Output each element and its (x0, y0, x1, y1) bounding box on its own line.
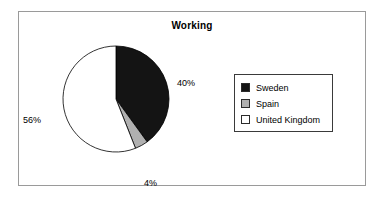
chart-title: Working (19, 20, 365, 31)
chart-legend: Sweden Spain United Kingdom (234, 74, 333, 132)
legend-swatch-sweden (241, 83, 250, 92)
legend-swatch-spain (241, 99, 250, 108)
pie-svg (63, 46, 169, 152)
legend-item-united-kingdom[interactable]: United Kingdom (241, 112, 326, 127)
legend-label-sweden: Sweden (256, 83, 289, 93)
pie-label-sweden: 40% (177, 78, 195, 88)
pie-chart (63, 46, 169, 152)
legend-item-sweden[interactable]: Sweden (241, 80, 326, 95)
chart-frame: Working 40% 4% 56% Sweden Spain United K… (18, 11, 366, 186)
legend-label-spain: Spain (256, 99, 279, 109)
pie-label-spain: 4% (144, 178, 157, 188)
pie-label-united-kingdom: 56% (23, 115, 41, 125)
legend-item-spain[interactable]: Spain (241, 96, 326, 111)
legend-label-united-kingdom: United Kingdom (256, 115, 320, 125)
legend-swatch-united-kingdom (241, 115, 250, 124)
